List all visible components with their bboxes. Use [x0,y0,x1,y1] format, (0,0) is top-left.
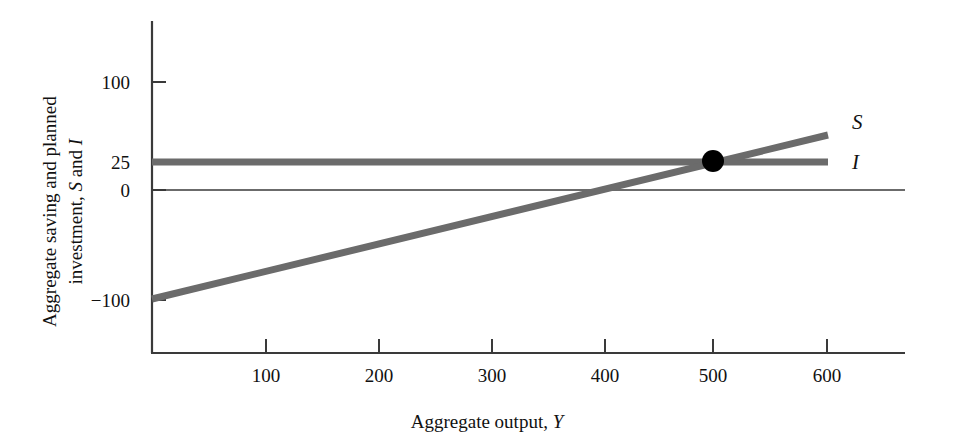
y-axis-title-variable-s: S [65,182,86,192]
figure-container: 100 25 0 −100 100 200 300 400 500 600 S … [0,0,974,447]
x-axis-title: Aggregate output, Y [0,411,974,433]
x-tick-label-100: 100 [252,366,281,385]
x-axis-ticks [266,339,827,353]
x-tick-label-300: 300 [478,366,507,385]
y-axis-title-variable-i: I [65,139,86,145]
y-axis-title-line2: investment, S and I [63,57,89,367]
y-axis-title-line2-text: investment, [65,192,86,285]
x-tick-label-200: 200 [365,366,394,385]
investment-curve-label: I [852,150,859,175]
y-axis-title-conjunction: and [65,145,86,182]
x-tick-label-500: 500 [699,366,728,385]
x-tick-label-400: 400 [591,366,620,385]
x-tick-label-600: 600 [813,366,842,385]
y-axis-title: Aggregate saving and planned investment,… [37,57,88,367]
y-axis-title-line1: Aggregate saving and planned [37,57,63,367]
x-axis-title-variable: Y [553,411,564,432]
equilibrium-point-marker [702,150,724,172]
x-axis-title-text: Aggregate output, [411,411,553,432]
y-axis-ticks [152,82,166,300]
saving-curve-label: S [852,110,863,135]
